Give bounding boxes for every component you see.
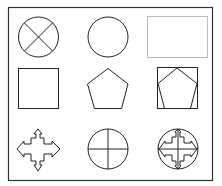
circle-with-plus-shape xyxy=(88,129,128,169)
shape-diagram xyxy=(0,0,222,186)
compound-arrow-cross-circle-shape xyxy=(158,129,198,169)
